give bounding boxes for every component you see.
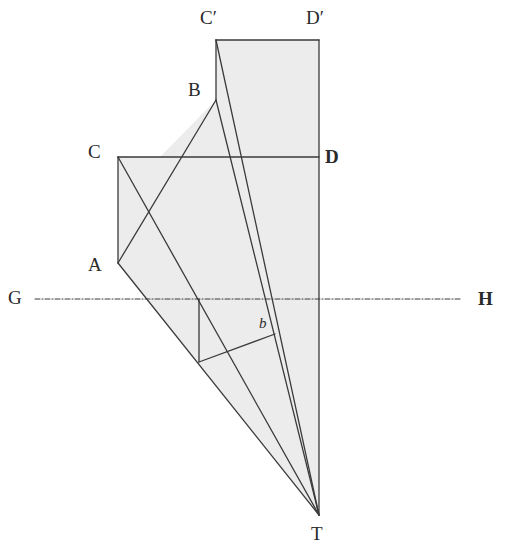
label-d: D [325, 147, 339, 166]
label-g: G [8, 288, 22, 307]
label-h: H [478, 289, 493, 308]
label-t: T [311, 524, 323, 543]
label-c-prime: C′ [200, 8, 217, 27]
perspective-diagram [0, 0, 506, 550]
label-d-prime: D′ [306, 8, 324, 27]
label-c: C [88, 142, 101, 161]
label-b-lower: b [259, 316, 267, 331]
shaded-ab-wedge [160, 100, 216, 157]
label-b-upper: B [188, 80, 201, 99]
shaded-upper-rect [216, 40, 319, 157]
label-a: A [88, 255, 102, 274]
